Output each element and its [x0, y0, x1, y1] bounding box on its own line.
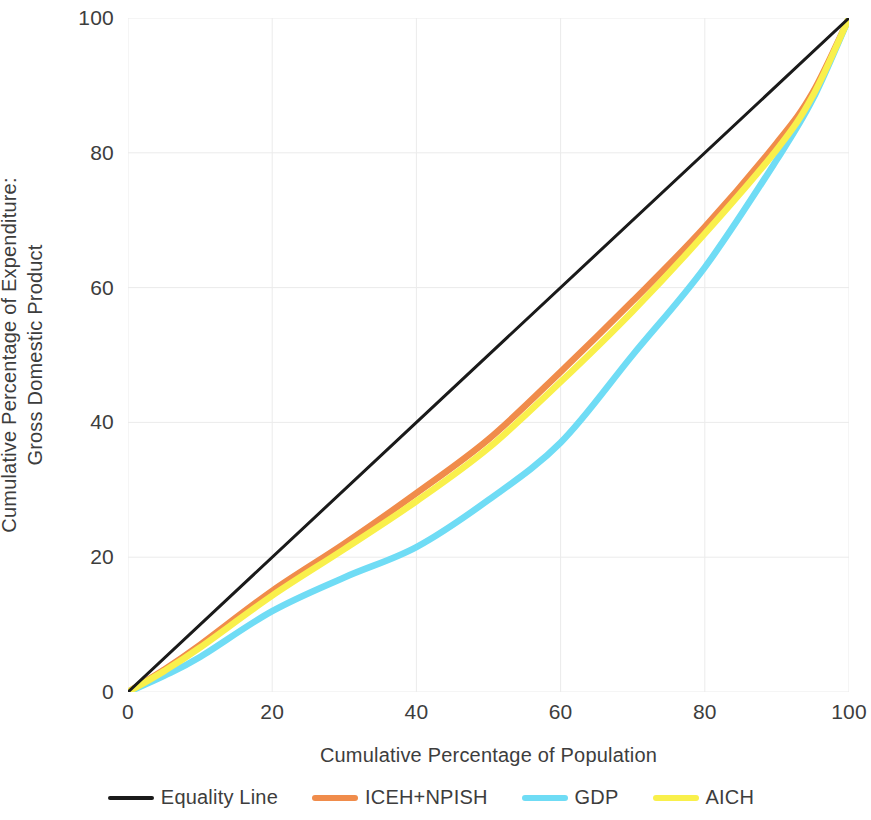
plot-canvas: [128, 18, 849, 692]
legend-item-gdp[interactable]: GDP: [522, 786, 619, 809]
legend-label: AICH: [706, 786, 755, 809]
legend-swatch-icon: [653, 795, 699, 801]
x-tick-label: 80: [670, 700, 740, 724]
x-axis-tick-labels: 020406080100: [128, 700, 849, 734]
x-tick-label: 40: [381, 700, 451, 724]
x-tick-label: 20: [237, 700, 307, 724]
y-tick-label: 20: [54, 545, 114, 569]
x-tick-label: 0: [93, 700, 163, 724]
x-tick-label: 100: [814, 700, 871, 724]
y-tick-label: 80: [54, 141, 114, 165]
x-axis-title: Cumulative Percentage of Population: [128, 744, 849, 767]
x-tick-label: 60: [526, 700, 596, 724]
legend-swatch-icon: [312, 795, 358, 801]
legend-label: ICEH+NPISH: [365, 786, 488, 809]
legend-item-equality-line[interactable]: Equality Line: [108, 786, 278, 809]
y-axis-title: Cumulative Percentage of Expenditure: Gr…: [0, 18, 44, 692]
legend-swatch-icon: [522, 795, 568, 801]
y-tick-label: 40: [54, 410, 114, 434]
chart-legend: Equality LineICEH+NPISHGDPAICH: [0, 786, 862, 809]
legend-swatch-icon: [108, 796, 154, 800]
legend-item-iceh-npish[interactable]: ICEH+NPISH: [312, 786, 488, 809]
legend-label: GDP: [575, 786, 619, 809]
series-line-equality-line: [128, 18, 849, 692]
plot-area: [128, 18, 849, 692]
y-axis-title-line-1: Cumulative Percentage of Expenditure:: [0, 177, 22, 532]
y-tick-label: 60: [54, 276, 114, 300]
legend-item-aich[interactable]: AICH: [653, 786, 755, 809]
legend-label: Equality Line: [161, 786, 278, 809]
y-tick-label: 100: [54, 6, 114, 30]
y-axis-tick-labels: 020406080100: [40, 18, 114, 692]
